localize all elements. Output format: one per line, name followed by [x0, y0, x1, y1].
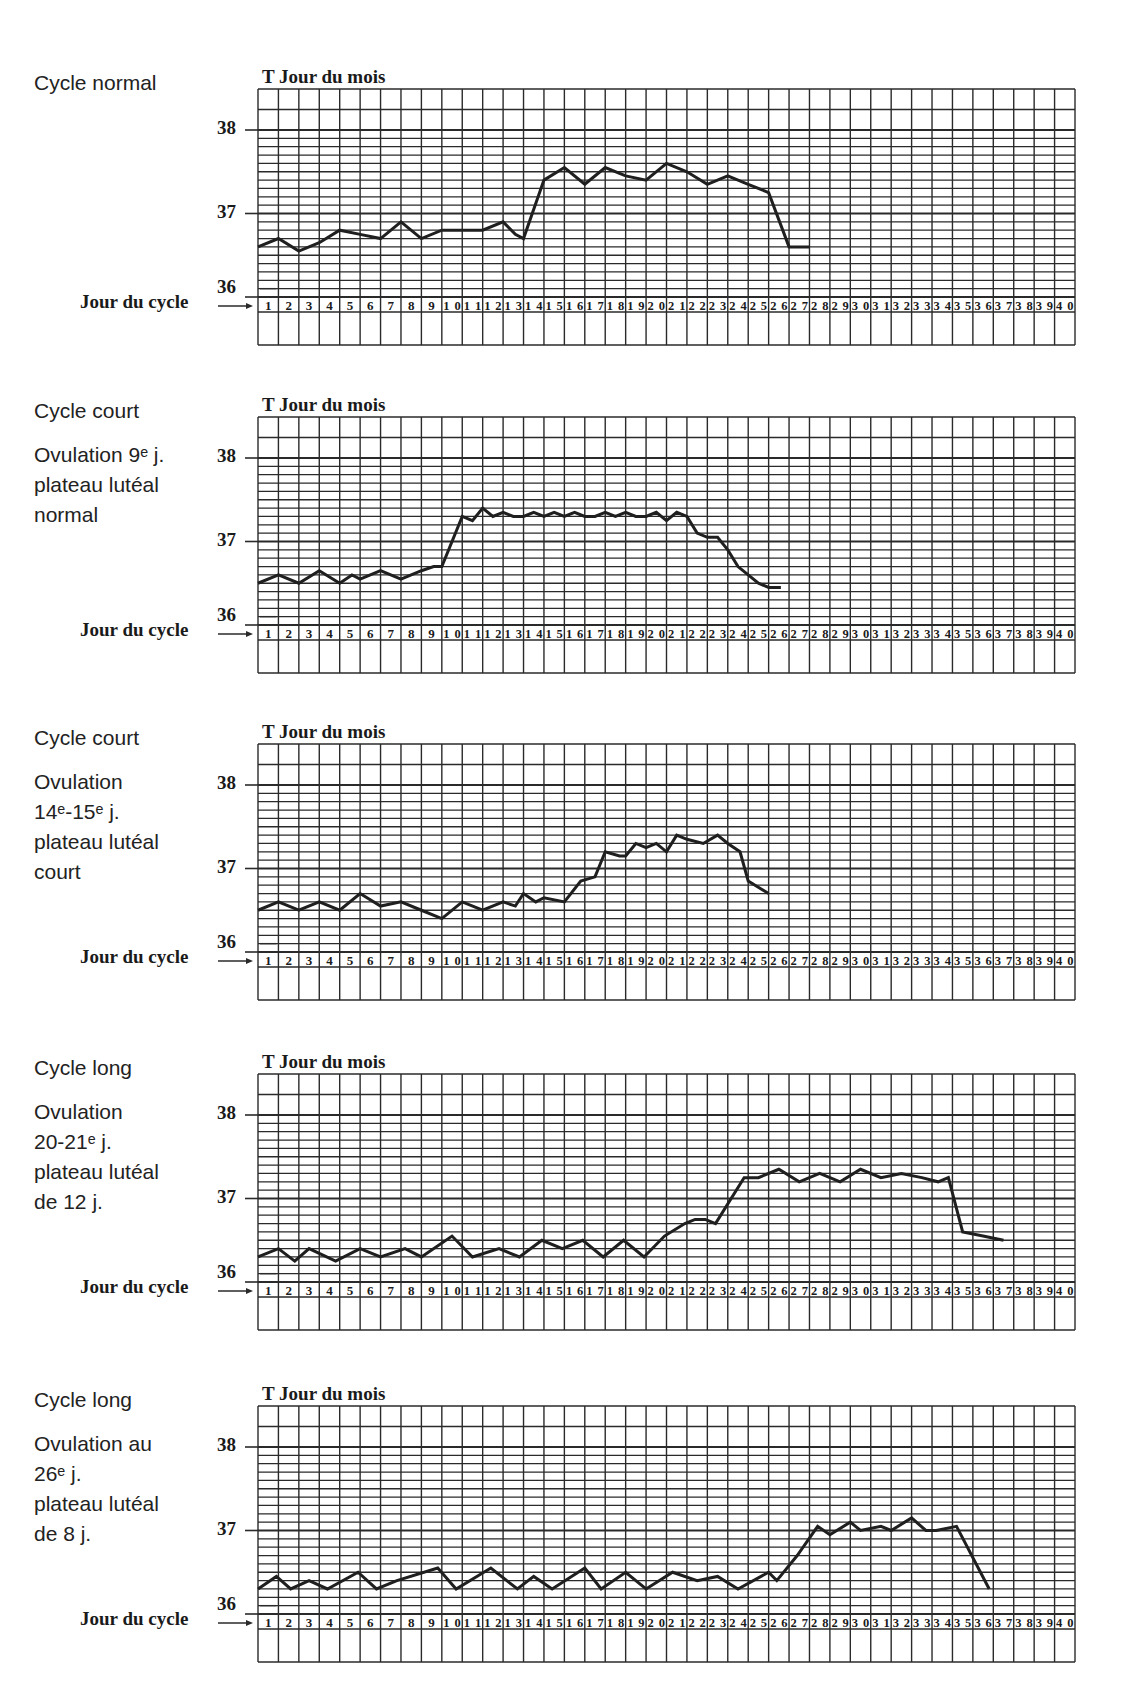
- day-label: 12: [484, 954, 501, 968]
- day-label: 8: [408, 1615, 415, 1630]
- panel-description-line: plateau lutéal: [34, 1157, 159, 1187]
- y-tick-label: 36: [217, 604, 236, 626]
- day-label: 15: [545, 627, 562, 641]
- day-label: 22: [688, 1616, 705, 1630]
- temperature-chart: 1234567891011121314151617181920212223242…: [0, 0, 1130, 1705]
- day-label: 12: [484, 1616, 501, 1630]
- day-label: 32: [893, 1284, 910, 1298]
- day-label: 19: [627, 627, 644, 641]
- day-label: 9: [428, 626, 435, 641]
- panel-description-line: 26ᵉ j.: [34, 1459, 159, 1489]
- panel-description-line: de 8 j.: [34, 1519, 159, 1549]
- y-tick-label: 38: [217, 772, 236, 794]
- day-label: 4: [326, 298, 333, 313]
- day-label: 3: [306, 1615, 313, 1630]
- day-label: 18: [607, 1284, 624, 1298]
- y-tick-label: 36: [217, 1593, 236, 1615]
- day-label: 38: [1015, 1616, 1032, 1630]
- day-label: 28: [811, 1616, 828, 1630]
- day-label: 27: [791, 627, 808, 641]
- day-label: 15: [545, 299, 562, 313]
- day-label: 36: [974, 299, 991, 313]
- day-label: 19: [627, 1616, 644, 1630]
- x-axis-label-jour-du-cycle: Jour du cycle: [80, 946, 188, 968]
- y-tick-label: 37: [217, 856, 236, 878]
- day-label: 28: [811, 954, 828, 968]
- day-label: 23: [709, 1284, 726, 1298]
- day-label: 23: [709, 954, 726, 968]
- day-label: 18: [607, 299, 624, 313]
- day-label: 1: [265, 626, 272, 641]
- day-label: 7: [388, 1615, 395, 1630]
- day-label: 16: [566, 299, 583, 313]
- day-label: 6: [367, 953, 374, 968]
- day-label: 22: [688, 954, 705, 968]
- day-label: 40: [1056, 627, 1073, 641]
- x-axis-label-jour-du-cycle: Jour du cycle: [80, 291, 188, 313]
- panel-title: Cycle court: [34, 396, 164, 426]
- chart-panel-1: Cycle normalT Jour du mois383736Jour du …: [0, 0, 1130, 1705]
- day-label: 9: [428, 953, 435, 968]
- temperature-curve: [258, 508, 781, 587]
- panel-description-line: Ovulation au: [34, 1429, 159, 1459]
- day-label: 38: [1015, 1284, 1032, 1298]
- day-label: 20: [648, 1616, 665, 1630]
- day-label: 18: [607, 627, 624, 641]
- x-axis-label-jour-du-cycle: Jour du cycle: [80, 619, 188, 641]
- day-label: 26: [770, 954, 787, 968]
- day-label: 16: [566, 1616, 583, 1630]
- panel-description-line: 20-21ᵉ j.: [34, 1127, 159, 1157]
- day-label: 34: [934, 299, 952, 313]
- day-label: 12: [484, 1284, 501, 1298]
- day-label: 8: [408, 298, 415, 313]
- panel-description: Cycle longOvulation au26ᵉ j.plateau luté…: [34, 1385, 159, 1549]
- day-label: 33: [913, 299, 930, 313]
- day-label: 1: [265, 298, 272, 313]
- y-tick-label: 38: [217, 445, 236, 467]
- day-label: 18: [607, 954, 624, 968]
- day-label: 7: [388, 1283, 395, 1298]
- day-label: 9: [428, 1615, 435, 1630]
- day-label: 37: [995, 299, 1012, 313]
- y-tick-label: 38: [217, 1434, 236, 1456]
- chart-title: T Jour du mois: [262, 1383, 385, 1405]
- day-label: 11: [464, 627, 481, 641]
- day-label: 30: [852, 627, 869, 641]
- day-label: 25: [750, 1284, 767, 1298]
- panel-description-line: normal: [34, 500, 164, 530]
- day-label: 38: [1015, 299, 1032, 313]
- day-label: 28: [811, 1284, 828, 1298]
- panel-description-line: plateau lutéal: [34, 827, 159, 857]
- panel-title: Cycle normal: [34, 68, 157, 98]
- panel-description-line: plateau lutéal: [34, 1489, 159, 1519]
- day-label: 31: [872, 954, 889, 968]
- day-label: 27: [791, 954, 808, 968]
- day-label: 16: [566, 1284, 583, 1298]
- day-label: 23: [709, 1616, 726, 1630]
- day-label: 3: [306, 626, 313, 641]
- temperature-curve: [258, 1518, 989, 1589]
- day-label: 6: [367, 626, 374, 641]
- day-label: 31: [872, 1616, 889, 1630]
- panel-title: Cycle long: [34, 1053, 159, 1083]
- day-label: 3: [306, 1283, 313, 1298]
- day-label: 27: [791, 299, 808, 313]
- day-label: 10: [443, 299, 460, 313]
- day-label: 15: [545, 1616, 562, 1630]
- day-label: 13: [505, 1616, 522, 1630]
- day-label: 19: [627, 1284, 644, 1298]
- day-label: 30: [852, 1616, 869, 1630]
- temperature-curve: [258, 163, 809, 251]
- day-label: 1: [265, 1615, 272, 1630]
- day-label: 12: [484, 627, 501, 641]
- panel-description-line: plateau lutéal: [34, 470, 164, 500]
- panel-description-line: Ovulation: [34, 1097, 159, 1127]
- chart-title: T Jour du mois: [262, 1051, 385, 1073]
- day-label: 9: [428, 298, 435, 313]
- day-label: 20: [648, 299, 665, 313]
- panel-title: Cycle court: [34, 723, 159, 753]
- day-label: 11: [464, 1616, 481, 1630]
- day-label: 29: [831, 1616, 848, 1630]
- day-label: 32: [893, 627, 910, 641]
- day-label: 36: [974, 954, 991, 968]
